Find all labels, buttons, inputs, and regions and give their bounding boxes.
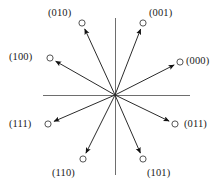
endpoint-marker-010 (79, 20, 85, 26)
axes-group (43, 18, 190, 175)
signal-vector-001 (115, 29, 141, 95)
label-101: (101) (147, 167, 170, 178)
endpoint-markers-group (45, 20, 183, 162)
signal-vector-110 (86, 95, 115, 153)
endpoint-marker-100 (47, 55, 53, 61)
endpoint-marker-101 (140, 156, 146, 162)
signal-vector-011 (115, 95, 169, 121)
endpoint-marker-110 (80, 156, 86, 162)
label-000: (000) (186, 55, 209, 66)
vector-diagram-canvas (0, 0, 221, 188)
endpoint-marker-000 (177, 59, 183, 65)
label-001: (001) (149, 7, 172, 18)
constellation-figure: (010)(001)(100)(000)(111)(011)(110)(101) (0, 0, 221, 188)
endpoint-marker-001 (140, 20, 146, 26)
label-011: (011) (184, 118, 207, 129)
label-100: (100) (9, 51, 32, 62)
label-111: (111) (9, 118, 31, 129)
label-010: (010) (48, 7, 71, 18)
signal-vectors-group (54, 29, 174, 153)
endpoint-marker-011 (172, 121, 178, 127)
signal-vector-101 (115, 95, 140, 153)
endpoint-marker-111 (45, 121, 51, 127)
signal-vector-000 (115, 65, 174, 95)
label-110: (110) (52, 167, 75, 178)
signal-vector-100 (56, 61, 115, 95)
signal-vector-111 (54, 95, 115, 121)
signal-vector-010 (85, 29, 115, 95)
